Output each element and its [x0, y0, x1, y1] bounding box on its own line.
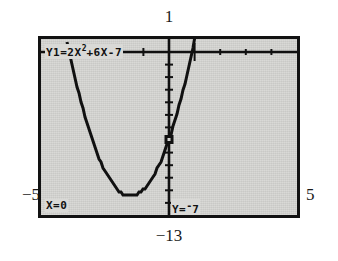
trace-x-prefix: X=	[46, 199, 60, 212]
window-xmax-label: 5	[306, 186, 334, 203]
equation-prefix: Y1=2X	[46, 46, 82, 59]
trace-y-prefix: Y=	[172, 203, 186, 216]
calculator-lcd-screen[interactable]: Y1=2X2+6X-7 X=0 Y=-7	[38, 36, 300, 218]
trace-y-negative-sign: -	[186, 200, 192, 211]
equation-label: Y1=2X2+6X-7	[45, 44, 123, 59]
function-curve	[67, 39, 195, 195]
trace-x-value: 0	[60, 199, 67, 212]
trace-y-readout: Y=-7	[171, 199, 200, 216]
trace-x-readout: X=0	[45, 199, 68, 212]
graph-plot-area	[41, 39, 297, 215]
window-ymin-label: −13	[0, 227, 338, 244]
window-ymax-label: 1	[0, 8, 338, 25]
calculator-screenshot: 1 −5 5 −13	[0, 0, 338, 261]
window-xmin-label: −5	[6, 186, 40, 203]
trace-y-value: 7	[192, 203, 199, 216]
trace-cursor-icon	[165, 135, 174, 144]
lcd-inner-surface: Y1=2X2+6X-7 X=0 Y=-7	[41, 39, 297, 215]
equation-suffix: +6X-7	[86, 46, 122, 59]
